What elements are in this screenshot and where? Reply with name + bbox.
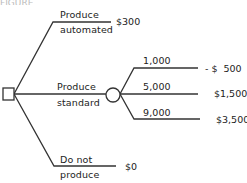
- branch-label-produce-automated-line1: Produce: [60, 9, 99, 20]
- payoff-do-not-produce: $0: [125, 161, 137, 172]
- branch-label-do-not-produce-line2: produce: [60, 169, 99, 180]
- payoff-automated: $300: [116, 16, 140, 27]
- branch-label-do-not-produce-line1: Do not: [60, 154, 92, 165]
- branch-label-produce-standard-line1: Produce: [57, 81, 96, 92]
- outcome-label-9000: 9,000: [143, 107, 171, 118]
- outcome-label-5000: 5,000: [143, 81, 171, 92]
- branch-label-produce-automated-line2: automated: [60, 24, 113, 35]
- decision-node-square: [3, 88, 14, 100]
- payoff-outcome-1000: - $ 500: [205, 63, 242, 74]
- payoff-outcome-5000: $1,500: [214, 88, 247, 99]
- outcome-label-1000: 1,000: [143, 55, 171, 66]
- payoff-outcome-9000: $3,500: [216, 114, 247, 125]
- branch-label-produce-standard-line2: standard: [57, 97, 100, 108]
- decision-tree-diagram: [0, 0, 247, 183]
- chance-node-circle: [106, 88, 120, 102]
